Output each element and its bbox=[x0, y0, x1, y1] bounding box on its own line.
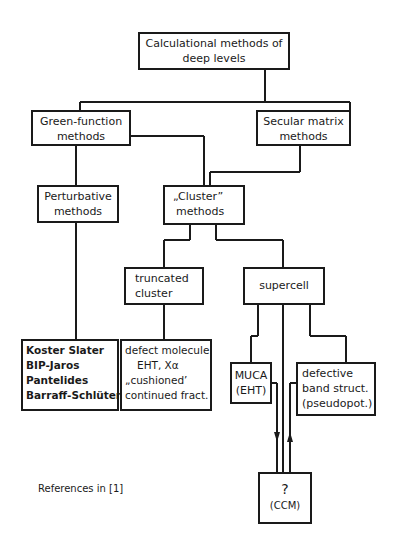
perturbative-line-2: methods bbox=[39, 204, 117, 219]
secular-matrix-line-2: methods bbox=[258, 129, 349, 144]
perturbative-line-1: Perturbative bbox=[39, 189, 117, 204]
truncated-references-box: defect molecule EHT, Xα „cushioned’ cont… bbox=[120, 339, 212, 411]
green-function-line-1: Green-function bbox=[33, 114, 129, 129]
muca-line-1: MUCA bbox=[232, 368, 270, 383]
ccm-question: ? bbox=[260, 480, 310, 498]
supercell-box: supercell bbox=[243, 267, 325, 305]
reference-item: „cushioned’ bbox=[125, 373, 210, 388]
reference-item: defect molecule bbox=[125, 343, 210, 358]
muca-box: MUCA (EHT) bbox=[230, 362, 272, 404]
title-box: Calculational methods of deep levels bbox=[138, 32, 290, 70]
perturbative-box: Perturbative methods bbox=[37, 185, 119, 223]
truncated-cluster-box: truncated cluster bbox=[124, 267, 204, 305]
ccm-box: ? (CCM) bbox=[258, 472, 312, 524]
truncated-cluster-line-1: truncated bbox=[135, 271, 202, 286]
reference-item: BIP-Jaros bbox=[26, 358, 117, 373]
green-function-box: Green-function methods bbox=[31, 110, 131, 146]
secular-matrix-box: Secular matrix methods bbox=[256, 110, 351, 146]
secular-matrix-line-1: Secular matrix bbox=[258, 114, 349, 129]
cluster-box: „Cluster” methods bbox=[163, 185, 245, 225]
title-line-1: Calculational methods of bbox=[140, 36, 288, 51]
supercell-label: supercell bbox=[245, 278, 323, 293]
green-function-line-2: methods bbox=[33, 129, 129, 144]
defective-band-line-1: defective bbox=[302, 366, 374, 381]
defective-band-line-3: (pseudopot.) bbox=[302, 396, 374, 411]
muca-line-2: (EHT) bbox=[232, 383, 270, 398]
defective-band-line-2: band struct. bbox=[302, 381, 374, 396]
truncated-cluster-line-2: cluster bbox=[135, 286, 202, 301]
reference-item: continued fract. bbox=[125, 388, 210, 403]
title-line-2: deep levels bbox=[140, 51, 288, 66]
ccm-label: (CCM) bbox=[260, 498, 310, 513]
cluster-line-2: methods bbox=[173, 204, 243, 219]
perturbative-references-box: Koster Slater BIP-Jaros Pantelides Barra… bbox=[21, 339, 119, 411]
defective-band-box: defective band struct. (pseudopot.) bbox=[296, 362, 376, 416]
reference-item: Barraff-Schlüter bbox=[26, 388, 117, 403]
cluster-line-1: „Cluster” bbox=[173, 189, 243, 204]
references-footnote: References in [1] bbox=[38, 483, 123, 494]
reference-item: EHT, Xα bbox=[125, 358, 210, 373]
reference-item: Pantelides bbox=[26, 373, 117, 388]
reference-item: Koster Slater bbox=[26, 343, 117, 358]
